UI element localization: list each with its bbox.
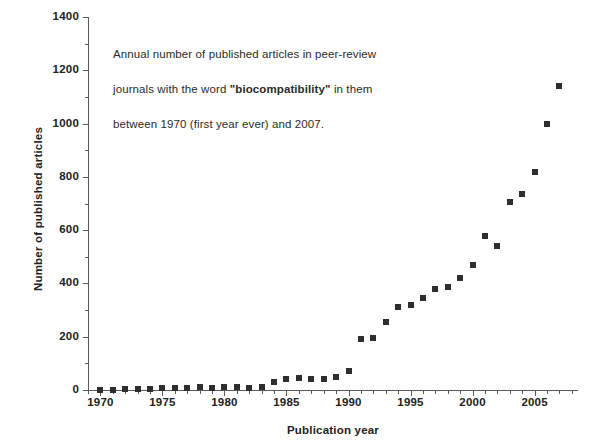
data-point (271, 379, 277, 385)
x-minor-tick (386, 391, 387, 394)
x-tick-label: 2005 (505, 396, 565, 408)
annotation-line-2-suffix: in them (331, 83, 373, 95)
data-point (159, 385, 165, 391)
y-minor-tick (85, 363, 88, 364)
x-minor-tick (311, 391, 312, 394)
data-point (358, 336, 364, 342)
data-point (246, 385, 252, 391)
y-minor-tick (85, 257, 88, 258)
data-point (482, 233, 488, 239)
data-point (122, 386, 128, 392)
data-point (97, 387, 103, 393)
y-major-tick (83, 70, 88, 71)
data-point (234, 384, 240, 390)
data-point (147, 386, 153, 392)
x-tick-label: 1985 (256, 396, 316, 408)
y-major-tick (83, 230, 88, 231)
x-minor-tick (262, 391, 263, 394)
x-minor-tick (497, 391, 498, 394)
x-minor-tick (510, 391, 511, 394)
x-tick-label: 1980 (194, 396, 254, 408)
data-point (544, 121, 550, 127)
data-point (532, 169, 538, 175)
x-minor-tick (175, 391, 176, 394)
chart-figure: Annual number of published articles in p… (0, 0, 595, 443)
y-tick-label: 600 (0, 223, 79, 235)
y-minor-tick (85, 150, 88, 151)
x-minor-tick (448, 391, 449, 394)
y-minor-tick (85, 204, 88, 205)
y-tick-label: 1000 (0, 117, 79, 129)
x-tick-label: 2000 (443, 396, 503, 408)
x-minor-tick (423, 391, 424, 394)
y-tick-label: 800 (0, 170, 79, 182)
data-point (197, 384, 203, 390)
data-point (259, 384, 265, 390)
y-tick-label: 1400 (0, 10, 79, 22)
y-tick-label: 400 (0, 276, 79, 288)
x-minor-tick (559, 391, 560, 394)
y-major-tick (83, 17, 88, 18)
annotation-line-1: Annual number of published articles in p… (113, 48, 376, 60)
y-tick-label: 1200 (0, 63, 79, 75)
x-minor-tick (435, 391, 436, 394)
data-point (135, 386, 141, 392)
x-minor-tick (373, 391, 374, 394)
data-point (445, 284, 451, 290)
data-point (308, 376, 314, 382)
data-point (172, 385, 178, 391)
data-point (457, 275, 463, 281)
y-minor-tick (85, 97, 88, 98)
x-tick-label: 1990 (319, 396, 379, 408)
y-major-tick (83, 337, 88, 338)
x-minor-tick (200, 391, 201, 394)
x-minor-tick (88, 391, 89, 394)
data-point (556, 83, 562, 89)
y-tick-label: 0 (0, 383, 79, 395)
data-point (110, 387, 116, 393)
x-minor-tick (361, 391, 362, 394)
data-point (507, 199, 513, 205)
y-tick-label: 200 (0, 330, 79, 342)
x-minor-tick (398, 391, 399, 394)
x-minor-tick (522, 391, 523, 394)
data-point (346, 368, 352, 374)
data-point (321, 376, 327, 382)
x-minor-tick (324, 391, 325, 394)
x-minor-tick (572, 391, 573, 394)
y-major-tick (83, 177, 88, 178)
data-point (383, 319, 389, 325)
x-minor-tick (547, 391, 548, 394)
data-point (296, 375, 302, 381)
data-point (395, 304, 401, 310)
data-point (470, 262, 476, 268)
x-minor-tick (237, 391, 238, 394)
data-point (221, 384, 227, 390)
y-minor-tick (85, 310, 88, 311)
x-minor-tick (274, 391, 275, 394)
x-minor-tick (336, 391, 337, 394)
y-axis-line (88, 17, 89, 390)
x-minor-tick (249, 391, 250, 394)
data-point (408, 302, 414, 308)
y-major-tick (83, 283, 88, 284)
data-point (283, 376, 289, 382)
x-tick-label: 1975 (132, 396, 192, 408)
data-point (209, 385, 215, 391)
x-minor-tick (212, 391, 213, 394)
data-point (519, 191, 525, 197)
x-minor-tick (187, 391, 188, 394)
x-axis-label: Publication year (88, 424, 578, 436)
data-point (420, 295, 426, 301)
annotation-line-3: between 1970 (first year ever) and 2007. (113, 118, 324, 130)
y-minor-tick (85, 44, 88, 45)
x-tick-label: 1995 (381, 396, 441, 408)
x-tick-label: 1970 (70, 396, 130, 408)
y-major-tick (83, 124, 88, 125)
data-point (333, 374, 339, 380)
data-point (432, 286, 438, 292)
annotation-line-2-prefix: journals with the word (113, 83, 230, 95)
data-point (184, 385, 190, 391)
x-minor-tick (485, 391, 486, 394)
x-minor-tick (460, 391, 461, 394)
